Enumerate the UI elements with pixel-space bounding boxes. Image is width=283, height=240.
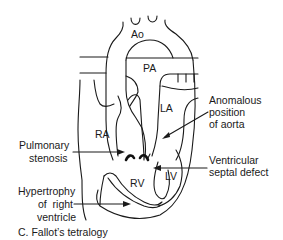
annotation-rv-hypertrophy-line1: Hypertrophy (18, 185, 76, 197)
label-la: LA (160, 102, 173, 114)
annotation-vsd-line2: septal defect (209, 166, 269, 178)
label-pa: PA (143, 62, 156, 74)
aorta-inner-arch (126, 40, 173, 60)
anomalous-aorta-leader (165, 112, 208, 137)
stenosis-valve-left (126, 156, 134, 160)
annotation-pulmonary-stenosis-line2: stenosis (29, 152, 68, 164)
ra-inner-wall (94, 80, 114, 106)
pa-trunk-right (152, 86, 160, 156)
annotation-anomalous-aorta-line3: of aorta (209, 118, 245, 130)
figure-caption: C. Fallot’s tetralogy (18, 226, 108, 238)
annotation-rv-hypertrophy-line3: ventricle (37, 211, 76, 223)
aorta-branch-2 (148, 16, 157, 22)
rv-hypertrophy-arrowhead (123, 201, 131, 207)
aorta-branch-1 (131, 18, 140, 24)
heart-outer-right (97, 60, 195, 218)
label-ra: RA (95, 128, 110, 140)
aorta-outer-right (165, 20, 193, 60)
annotation-rv-hypertrophy-line2: of right (38, 198, 73, 210)
pa-right-branch-bottom (160, 74, 198, 86)
stenosis-valve-tail (148, 154, 150, 158)
annotation-vsd-line1: Ventricular (209, 154, 259, 166)
label-lv: LV (165, 170, 177, 182)
annotation-pulmonary-stenosis-line1: Pulmonary (19, 139, 70, 151)
ra-septum (116, 96, 121, 156)
aorta-inner-descend (126, 60, 146, 158)
rv-left-wall (100, 176, 104, 205)
annotation-anomalous-aorta-line2: position (209, 106, 245, 118)
fallot-tetralogy-diagram: Ao PA LA RA RV LV Anomalous position of … (0, 0, 283, 240)
pulmonary-stenosis-arrowhead (117, 149, 125, 155)
annotation-anomalous-aorta-line1: Anomalous (209, 94, 262, 106)
anomalous-aorta-arrowhead (162, 132, 170, 139)
label-ao: Ao (131, 28, 144, 40)
label-rv: RV (130, 177, 144, 189)
la-top-wall (162, 86, 198, 90)
ra-outer-wall (78, 80, 86, 220)
